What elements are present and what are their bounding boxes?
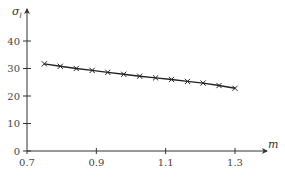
x-tick-label: 0.9 [88,157,104,168]
y-tick-label: 20 [7,91,20,102]
x-axis-title: m [268,138,278,151]
x-tick-label: 1.3 [227,157,243,168]
y-axis-title-subscript: l [20,12,22,20]
x-tick-label: 1.1 [158,157,174,168]
y-tick-label: 10 [7,118,20,129]
x-tick-label: 0.7 [19,157,35,168]
y-tick-label: 30 [7,63,20,74]
series-group [42,61,238,91]
y-tick-label: 0 [14,146,20,157]
y-axis-title: σl [12,5,22,20]
chart: 0.70.91.11.3 010203040 σl m [0,0,285,179]
y-tick-label: 40 [7,36,20,47]
